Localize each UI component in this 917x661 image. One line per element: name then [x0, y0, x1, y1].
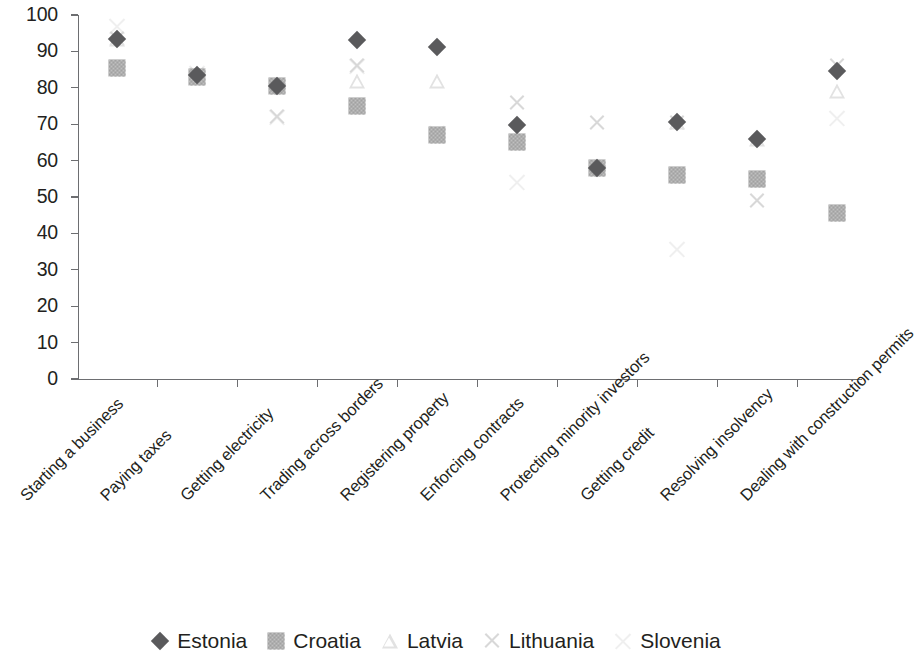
- x-axis-label-7: Getting credit: [577, 424, 657, 504]
- x-tick-7: [637, 379, 638, 387]
- x-tick-6: [557, 379, 558, 387]
- datapoint-latvia-4: [429, 73, 445, 88]
- datapoint-estonia-3: [348, 31, 366, 49]
- datapoint-croatia-0: [109, 59, 126, 76]
- legend-label-croatia: Croatia: [293, 630, 361, 652]
- marker-estonia-diamond-icon: [151, 632, 169, 650]
- x-tick-9: [797, 379, 798, 387]
- y-tick-label-text: 80: [37, 78, 58, 98]
- y-tick-100: [71, 14, 78, 15]
- y-tick-50: [71, 196, 78, 197]
- marker-slovenia-cross-icon: [613, 631, 634, 652]
- datapoint-slovenia-5: [507, 172, 528, 193]
- legend-swatch-lithuania: [481, 630, 503, 652]
- datapoint-croatia-9: [829, 205, 846, 222]
- datapoint-croatia-7: [669, 167, 686, 184]
- datapoint-croatia-3: [349, 98, 366, 115]
- datapoint-latvia-9: [829, 84, 845, 99]
- x-tick-8: [717, 379, 718, 387]
- legend-label-latvia: Latvia: [407, 630, 463, 652]
- y-tick-label-text: 40: [37, 223, 58, 243]
- datapoint-croatia-4: [429, 127, 446, 144]
- legend-item-lithuania[interactable]: Lithuania: [481, 630, 594, 652]
- y-tick-label-text: 50: [37, 187, 58, 207]
- legend-swatch-slovenia: [612, 630, 634, 652]
- x-axis-label-1: Paying taxes: [97, 426, 175, 504]
- datapoint-lithuania-5: [508, 93, 527, 112]
- chart-legend: EstoniaCroatiaLatviaLithuaniaSlovenia: [0, 630, 870, 652]
- datapoint-croatia-8: [749, 170, 766, 187]
- y-tick-60: [71, 160, 78, 161]
- y-tick-30: [71, 269, 78, 270]
- x-tick-1: [157, 379, 158, 387]
- marker-latvia-triangle-icon: [382, 634, 398, 649]
- y-tick-label-text: 60: [37, 151, 58, 171]
- legend-label-lithuania: Lithuania: [509, 630, 594, 652]
- y-tick-0: [71, 378, 78, 379]
- legend-label-slovenia: Slovenia: [640, 630, 721, 652]
- y-tick-label-text: 70: [37, 114, 58, 134]
- y-tick-80: [71, 87, 78, 88]
- x-tick-4: [397, 379, 398, 387]
- y-tick-label-text: 30: [37, 260, 58, 280]
- legend-label-estonia: Estonia: [177, 630, 247, 652]
- y-tick-label-text: 90: [37, 41, 58, 61]
- x-tick-3: [317, 379, 318, 387]
- legend-item-latvia[interactable]: Latvia: [379, 630, 463, 652]
- legend-swatch-estonia: [149, 630, 171, 652]
- marker-croatia-square-icon: [268, 633, 285, 650]
- datapoint-lithuania-8: [748, 191, 767, 210]
- y-tick-label-text: 100: [26, 5, 58, 25]
- legend-swatch-latvia: [379, 630, 401, 652]
- y-tick-label-text: 10: [37, 333, 58, 353]
- legend-swatch-croatia: [265, 630, 287, 652]
- x-tick-5: [477, 379, 478, 387]
- y-tick-20: [71, 306, 78, 307]
- datapoint-estonia-4: [428, 38, 446, 56]
- marker-lithuania-cross-icon: [482, 632, 501, 651]
- datapoint-estonia-5: [508, 116, 526, 134]
- legend-item-estonia[interactable]: Estonia: [149, 630, 247, 652]
- x-tick-2: [237, 379, 238, 387]
- x-axis-line: [78, 379, 862, 380]
- x-axis-label-9: Dealing with construction permits: [737, 324, 917, 504]
- datapoint-slovenia-9: [827, 108, 848, 129]
- y-tick-label-text: 0: [47, 369, 58, 389]
- y-tick-label-text: 20: [37, 296, 58, 316]
- datapoint-slovenia-7: [667, 239, 688, 260]
- datapoint-lithuania-2: [268, 107, 287, 126]
- y-tick-10: [71, 342, 78, 343]
- y-tick-70: [71, 124, 78, 125]
- y-tick-90: [71, 51, 78, 52]
- legend-item-slovenia[interactable]: Slovenia: [612, 630, 721, 652]
- y-axis-line: [78, 15, 79, 379]
- x-axis-label-6: Protecting minority investors: [497, 349, 652, 504]
- datapoint-croatia-5: [509, 134, 526, 151]
- y-tick-40: [71, 233, 78, 234]
- datapoint-latvia-3: [349, 73, 365, 88]
- datapoint-lithuania-6: [588, 113, 607, 132]
- legend-item-croatia[interactable]: Croatia: [265, 630, 361, 652]
